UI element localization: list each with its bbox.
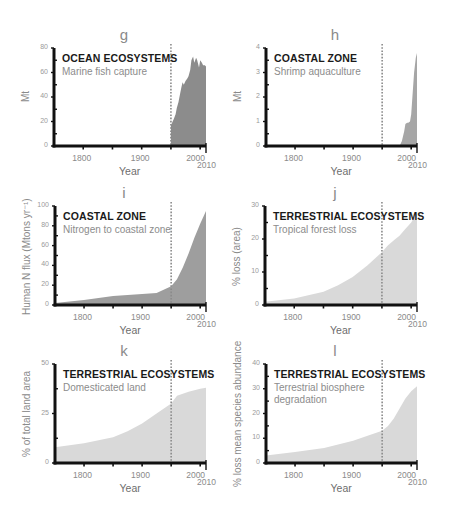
y-tick-label: 40: [240, 359, 260, 366]
y-tick-label: 0: [240, 458, 260, 465]
y-tick-label: 30: [240, 384, 260, 391]
y-axis-label: % loss mean species abundance: [232, 341, 243, 487]
chart-subtitle: Terrestrial biosphere degradation: [274, 382, 404, 406]
y-tick-label: 20: [240, 409, 260, 416]
panel-letter: l: [325, 342, 345, 359]
x-tick-label-end: 2010: [408, 477, 427, 487]
x-tick-label: 1800: [284, 470, 303, 480]
y-tick-label: 10: [240, 433, 260, 440]
chart-title: TERRESTRIAL ECOSYSTEMS: [274, 368, 425, 380]
x-axis-label: Year: [331, 482, 352, 494]
x-tick-label: 1900: [342, 470, 361, 480]
plot-area-l: [0, 0, 449, 516]
